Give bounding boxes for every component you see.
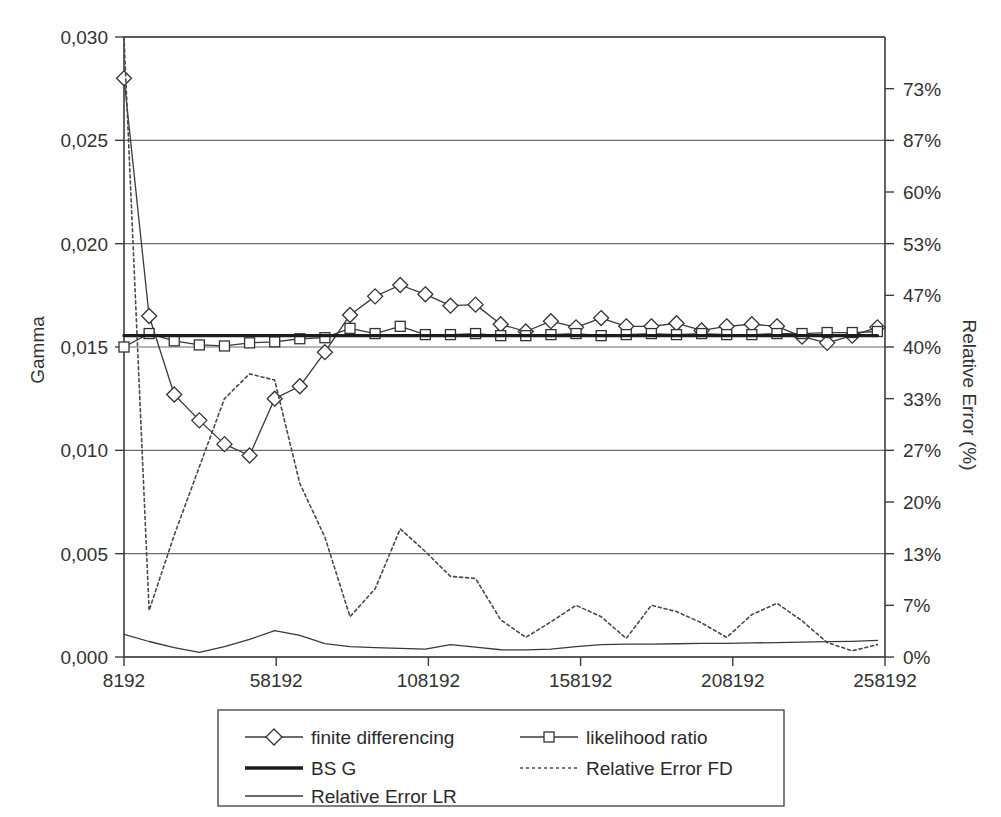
y2-axis-title: Relative Error (%)	[959, 320, 980, 471]
data-point-marker	[245, 338, 255, 348]
legend-label: finite differencing	[311, 727, 454, 748]
gamma-relative-error-chart: 819258192108192158192208192258192 0,0000…	[0, 0, 1001, 817]
legend-label: Relative Error FD	[586, 758, 733, 779]
y-tick-label: 0,015	[60, 337, 108, 358]
data-point-marker	[219, 341, 229, 351]
y2-tick-label: 53%	[903, 234, 941, 255]
y-tick-label: 0,010	[60, 440, 108, 461]
y2-tick-label: 40%	[903, 337, 941, 358]
y2-tick-label: 13%	[903, 544, 941, 565]
y-tick-label: 0,005	[60, 544, 108, 565]
x-tick-label: 58192	[250, 670, 303, 691]
data-point-marker	[270, 337, 280, 347]
x-tick-label: 108192	[397, 670, 460, 691]
legend-label: Relative Error LR	[311, 786, 457, 807]
square-marker-icon	[544, 732, 554, 742]
data-point-marker	[395, 321, 405, 331]
y2-tick-label: 73%	[903, 79, 941, 100]
y-tick-label: 0,000	[60, 647, 108, 668]
y-axis-title: Gamma	[27, 316, 48, 384]
x-tick-label: 8192	[103, 670, 145, 691]
data-point-marker	[119, 342, 129, 352]
y2-tick-label: 33%	[903, 389, 941, 410]
y2-tick-label: 47%	[903, 285, 941, 306]
data-point-marker	[345, 323, 355, 333]
y2-tick-label: 87%	[903, 130, 941, 151]
y2-tick-label: 7%	[903, 595, 931, 616]
y2-tick-label: 27%	[903, 440, 941, 461]
x-tick-label: 208192	[701, 670, 764, 691]
chart-container: 819258192108192158192208192258192 0,0000…	[0, 0, 1001, 817]
y-tick-label: 0,025	[60, 130, 108, 151]
chart-legend: finite differencinglikelihood ratioBS GR…	[218, 710, 784, 807]
chart-background	[0, 0, 1001, 817]
x-tick-label: 258192	[853, 670, 916, 691]
legend-label: BS G	[311, 758, 356, 779]
x-tick-label: 158192	[549, 670, 612, 691]
y2-tick-label: 20%	[903, 492, 941, 513]
y2-tick-label: 0%	[903, 647, 931, 668]
y-tick-label: 0,030	[60, 27, 108, 48]
y2-tick-label: 60%	[903, 182, 941, 203]
legend-label: likelihood ratio	[586, 727, 707, 748]
y-tick-label: 0,020	[60, 234, 108, 255]
data-point-marker	[194, 340, 204, 350]
